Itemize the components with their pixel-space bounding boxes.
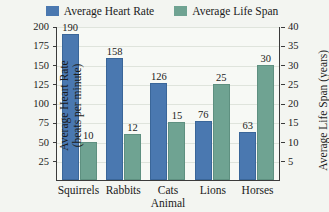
left-tick-mark xyxy=(53,65,57,66)
right-tick-mark xyxy=(281,84,285,85)
bar-value-life-span: 10 xyxy=(83,130,94,141)
bar-life-span[interactable]: 25 xyxy=(213,27,230,180)
bar-value-life-span: 15 xyxy=(172,110,183,121)
left-tick-label: 25 xyxy=(19,156,49,167)
left-tick-label: 175 xyxy=(19,40,49,51)
left-tick-mark xyxy=(53,161,57,162)
bar-value-heart-rate: 76 xyxy=(198,109,209,120)
bar-heart-rate[interactable]: 76 xyxy=(195,27,212,180)
bar-rect-life-span xyxy=(124,134,141,180)
right-tick-label: 15 xyxy=(288,117,310,128)
bar-group: 6330 xyxy=(239,27,274,180)
right-tick-mark xyxy=(281,142,285,143)
legend-entry-heart-rate: Average Heart Rate xyxy=(46,5,154,17)
legend-label-heart-rate: Average Heart Rate xyxy=(64,5,154,17)
bar-heart-rate[interactable]: 158 xyxy=(106,27,123,180)
bar-group: 12615 xyxy=(150,27,185,180)
x-tick-label: Horses xyxy=(235,184,280,197)
left-axis-title-line1: Average Heart Rate xyxy=(58,29,71,183)
right-tick-mark xyxy=(281,104,285,105)
bar-life-span[interactable]: 30 xyxy=(257,27,274,180)
chart-legend: Average Heart Rate Average Life Span xyxy=(0,2,324,20)
right-tick-label: 25 xyxy=(288,79,310,90)
left-tick-mark xyxy=(53,84,57,85)
bar-rect-life-span xyxy=(213,84,230,180)
x-tick-label: Cats xyxy=(146,184,191,197)
right-tick-mark xyxy=(281,161,285,162)
bars-layer: 19010158121261576256330 xyxy=(57,27,279,180)
right-tick-mark xyxy=(281,65,285,66)
left-tick-label: 150 xyxy=(19,60,49,71)
bar-value-life-span: 25 xyxy=(216,72,227,83)
legend-label-life-span: Average Life Span xyxy=(192,5,278,17)
bar-group: 15812 xyxy=(106,27,141,180)
x-tick-label: Squirrels xyxy=(56,184,101,197)
x-tick-label: Lions xyxy=(190,184,235,197)
right-tick-label: 30 xyxy=(288,60,310,71)
left-tick-label: 125 xyxy=(19,79,49,90)
bar-value-heart-rate: 126 xyxy=(151,71,167,82)
bar-value-life-span: 30 xyxy=(261,53,272,64)
x-axis-tick-labels: SquirrelsRabbitsCatsLionsHorses xyxy=(56,184,280,197)
right-axis-title: Average Life Span (years) xyxy=(317,33,329,187)
bar-rect-heart-rate xyxy=(195,121,212,180)
legend-swatch-heart-rate xyxy=(46,6,59,16)
left-tick-label: 75 xyxy=(19,117,49,128)
right-tick-label: 20 xyxy=(288,98,310,109)
right-tick-label: 10 xyxy=(288,137,310,148)
left-tick-mark xyxy=(53,27,57,28)
left-tick-mark xyxy=(53,46,57,47)
left-axis-title-line2: (beats per minute) xyxy=(70,29,83,183)
right-tick-label: 40 xyxy=(288,21,310,32)
bar-heart-rate[interactable]: 63 xyxy=(239,27,256,180)
left-tick-label: 100 xyxy=(19,98,49,109)
bar-life-span[interactable]: 12 xyxy=(124,27,141,180)
left-tick-mark xyxy=(53,104,57,105)
legend-swatch-life-span xyxy=(174,6,187,16)
left-tick-label: 200 xyxy=(19,21,49,32)
bar-value-life-span: 12 xyxy=(127,122,138,133)
right-tick-mark xyxy=(281,123,285,124)
legend-entry-life-span: Average Life Span xyxy=(174,5,278,17)
plot-area: 19010158121261576256330 2550751001251501… xyxy=(56,27,280,181)
left-tick-mark xyxy=(53,123,57,124)
bar-value-heart-rate: 158 xyxy=(107,46,123,57)
left-axis-title: Average Heart Rate (beats per minute) xyxy=(58,29,83,183)
bar-value-heart-rate: 63 xyxy=(243,120,254,131)
x-axis-title: Animal xyxy=(56,197,280,210)
bar-rect-life-span xyxy=(257,65,274,181)
right-tick-label: 35 xyxy=(288,40,310,51)
bar-rect-heart-rate xyxy=(106,58,123,180)
left-tick-mark xyxy=(53,142,57,143)
bar-life-span[interactable]: 15 xyxy=(168,27,185,180)
bar-rect-heart-rate xyxy=(239,132,256,181)
bar-heart-rate[interactable]: 126 xyxy=(150,27,167,180)
left-tick-label: 50 xyxy=(19,137,49,148)
bar-rect-heart-rate xyxy=(150,83,167,180)
bar-rect-life-span xyxy=(168,122,185,180)
right-tick-mark xyxy=(281,46,285,47)
right-tick-mark xyxy=(281,27,285,28)
right-tick-label: 5 xyxy=(288,156,310,167)
x-tick-label: Rabbits xyxy=(101,184,146,197)
bar-group: 7625 xyxy=(195,27,230,180)
